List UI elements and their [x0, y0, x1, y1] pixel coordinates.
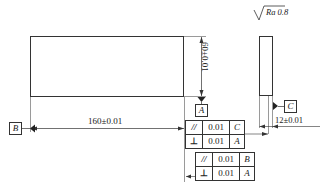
surface-finish-label: Ra 0.8	[266, 8, 288, 17]
height-dimension-text: 60±0.01	[200, 42, 210, 72]
datum-c-triangle-icon	[273, 102, 278, 110]
perpendicularity-icon: ⊥	[186, 135, 203, 149]
arrow-right-icon	[178, 127, 184, 131]
fcf-row: // 0.01 C	[186, 121, 245, 135]
fcf-row: ⊥ 0.01 A	[186, 135, 245, 149]
datum-c-box: C	[284, 100, 297, 113]
datum-b-box: B	[9, 122, 22, 135]
datum-reference: B	[240, 153, 255, 167]
feature-control-frame-2: // 0.01 B ⊥ 0.01 A	[195, 152, 255, 181]
arrow-down-icon	[200, 90, 204, 96]
datum-reference: A	[230, 135, 245, 149]
tolerance-value: 0.01	[203, 121, 230, 135]
datum-reference: C	[230, 121, 245, 135]
perpendicularity-icon: ⊥	[196, 167, 213, 181]
drawing-canvas	[0, 0, 322, 192]
feature-control-frame-1: // 0.01 C ⊥ 0.01 A	[185, 120, 245, 149]
fcf-row: ⊥ 0.01 A	[196, 167, 255, 181]
tolerance-value: 0.01	[203, 135, 230, 149]
front-view-outline	[31, 37, 184, 97]
parallelism-icon: //	[196, 153, 213, 167]
parallelism-icon: //	[186, 121, 203, 135]
tolerance-value: 0.01	[213, 153, 240, 167]
datum-reference: A	[240, 167, 255, 181]
side-view-outline	[260, 37, 273, 96]
datum-a-triangle-icon	[198, 97, 206, 102]
datum-a-box: A	[195, 104, 208, 117]
fcf-row: // 0.01 B	[196, 153, 255, 167]
thickness-dimension-text: 12±0.01	[275, 116, 303, 125]
length-dimension-text: 160±0.01	[88, 117, 122, 126]
tolerance-value: 0.01	[213, 167, 240, 181]
